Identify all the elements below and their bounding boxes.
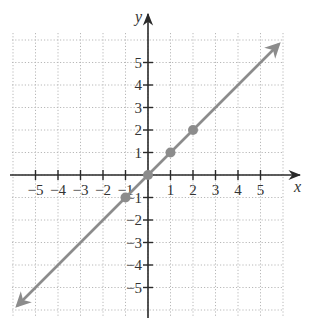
coordinate-plane: −5−4−3−2−112345−5−4−3−2−112345 x y — [0, 0, 311, 319]
x-tick-label: 1 — [167, 182, 175, 198]
x-tick-label: 2 — [189, 182, 197, 198]
x-tick-label: −4 — [50, 182, 66, 198]
x-tick-label: 3 — [212, 182, 220, 198]
y-tick-label: −5 — [126, 280, 142, 296]
x-tick-label: 4 — [234, 182, 242, 198]
y-tick-label: 4 — [135, 77, 143, 93]
data-point — [188, 125, 198, 135]
data-point — [166, 148, 176, 158]
x-axis-label: x — [293, 178, 301, 195]
data-point — [121, 193, 131, 203]
y-tick-label: 5 — [135, 55, 143, 71]
y-axis-label: y — [133, 8, 143, 26]
data-point — [143, 170, 153, 180]
y-tick-label: 3 — [135, 100, 143, 116]
y-tick-label: 1 — [135, 145, 143, 161]
x-tick-label: −5 — [28, 182, 44, 198]
y-tick-label: 2 — [135, 122, 143, 138]
x-tick-label: −2 — [95, 182, 111, 198]
axes — [10, 14, 300, 318]
y-tick-label: −2 — [126, 212, 142, 228]
x-tick-label: 5 — [257, 182, 265, 198]
y-tick-label: −3 — [126, 235, 142, 251]
y-tick-label: −4 — [126, 257, 142, 273]
x-tick-label: −3 — [73, 182, 89, 198]
